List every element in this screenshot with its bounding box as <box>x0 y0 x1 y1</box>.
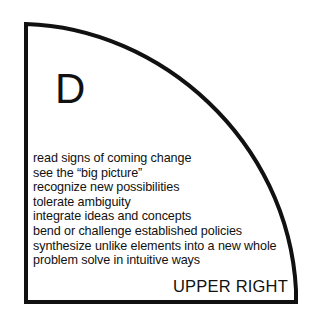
trait-item: integrate ideas and concepts <box>33 209 277 224</box>
quadrant-letter: D <box>55 68 85 110</box>
trait-item: synthesize unlike elements into a new wh… <box>33 239 277 254</box>
trait-item: problem solve in intuitive ways <box>33 253 277 268</box>
trait-list: read signs of coming change see the “big… <box>33 151 277 268</box>
trait-item: see the “big picture” <box>33 166 277 181</box>
trait-item: read signs of coming change <box>33 151 277 166</box>
trait-item: bend or challenge established policies <box>33 224 277 239</box>
quadrant-position-label: UPPER RIGHT <box>173 277 288 295</box>
trait-item: tolerate ambiguity <box>33 195 277 210</box>
trait-item: recognize new possibilities <box>33 180 277 195</box>
